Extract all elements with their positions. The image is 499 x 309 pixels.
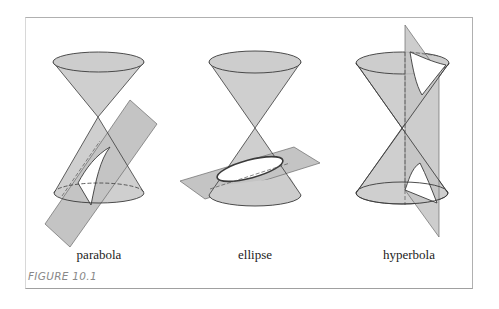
- label-ellipse: ellipse: [205, 247, 305, 263]
- hyperbola-diagram: [356, 25, 449, 237]
- ellipse-diagram: [180, 51, 320, 206]
- label-hyperbola: hyperbola: [359, 247, 459, 263]
- figure-caption: FIGURE 10.1: [28, 270, 97, 282]
- parabola-diagram: [45, 52, 157, 247]
- label-parabola: parabola: [49, 247, 149, 263]
